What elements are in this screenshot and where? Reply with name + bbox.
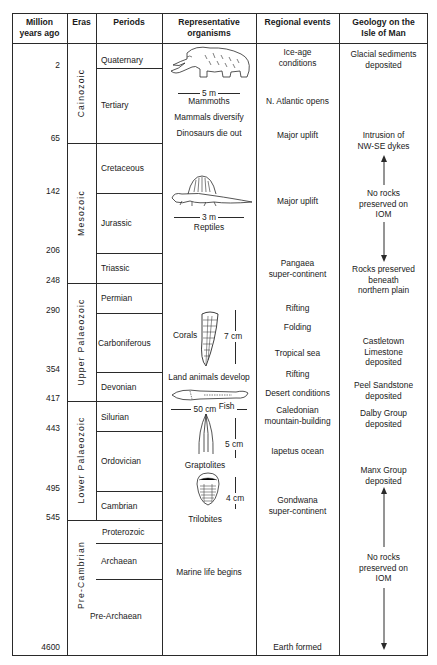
era-divider xyxy=(67,283,162,284)
scale-arrow-left xyxy=(171,409,191,410)
age-label: 2 xyxy=(12,60,60,71)
graptolite-scale-line xyxy=(235,418,236,458)
period-ordovician: Ordovician xyxy=(101,456,141,467)
age-label: 290 xyxy=(12,305,60,316)
scale-arrow-left xyxy=(178,93,200,94)
header-geology-line1: Geology on the xyxy=(339,17,428,28)
column-divider xyxy=(162,13,163,656)
fish-icon xyxy=(170,387,250,403)
reptile-scale: 3 m xyxy=(162,212,256,223)
geology-castletown-line2: Limestone xyxy=(339,347,428,358)
corals-label: Corals xyxy=(173,330,197,341)
event-folding: Folding xyxy=(256,322,339,333)
period-archaean: Archaean xyxy=(101,556,137,567)
header-organisms-line2: organisms xyxy=(162,28,256,39)
geology-glacial-line1: Glacial sediments xyxy=(339,49,428,60)
geology-no-rocks-2: No rocks preserved on IOM xyxy=(339,552,428,584)
header-periods: Periods xyxy=(96,17,162,28)
geology-rocks-preserved-line3: northern plain xyxy=(339,285,428,296)
reptile-icon xyxy=(168,174,253,208)
geology-dalby-line2: deposited xyxy=(339,419,428,430)
marine-life-begins: Marine life begins xyxy=(162,567,256,578)
period-divider xyxy=(96,543,162,544)
period-divider xyxy=(96,491,162,492)
scale-arrow-right xyxy=(218,217,244,218)
event-tropical-sea: Tropical sea xyxy=(256,348,339,359)
event-ice-age-line1: Ice-age xyxy=(256,47,339,58)
age-label: 4600 xyxy=(12,642,60,653)
event-rifting-1: Rifting xyxy=(256,303,339,314)
geology-rocks-preserved-line2: beneath xyxy=(339,275,428,286)
header-mya: Million years ago xyxy=(12,17,67,38)
era-cainozoic: Cainozoic xyxy=(76,53,86,133)
period-divider xyxy=(96,68,162,69)
period-divider xyxy=(96,313,162,314)
column-divider xyxy=(96,13,97,520)
period-divider xyxy=(96,253,162,254)
geology-no-rocks-2-line3: IOM xyxy=(339,573,428,584)
fish-scale: 50 cm Fish xyxy=(162,404,256,415)
land-animals-develop: Land animals develop xyxy=(162,372,256,383)
arrow-down-icon xyxy=(379,588,389,650)
trilobites-label: Trilobites xyxy=(165,514,245,525)
period-permian: Permian xyxy=(101,293,132,304)
event-gondwana: Gondwana super-continent xyxy=(256,495,339,516)
era-upper-palaeozoic: Upper Palaeozoic xyxy=(76,292,86,392)
period-pre-archaean: Pre-Archaean xyxy=(90,611,142,622)
geology-peel: Peel Sandstone deposited xyxy=(339,380,428,401)
era-lower-palaeozoic: Lower Palaeozoic xyxy=(76,410,86,510)
geology-castletown: Castletown Limestone deposited xyxy=(339,336,428,368)
event-major-uplift-2: Major uplift xyxy=(256,196,339,207)
geology-glacial-line2: deposited xyxy=(339,60,428,71)
geology-rocks-preserved: Rocks preserved beneath northern plain xyxy=(339,264,428,296)
period-tertiary: Tertiary xyxy=(101,100,128,111)
graptolite-icon xyxy=(196,414,216,454)
geology-no-rocks-1-line3: IOM xyxy=(339,209,428,220)
event-atlantic-opens: N. Atlantic opens xyxy=(256,96,339,107)
event-caledonian-line2: mountain-building xyxy=(256,416,339,427)
geology-rocks-preserved-line1: Rocks preserved xyxy=(339,264,428,275)
era-mesozoic: Mesozoic xyxy=(76,173,86,253)
age-label: 248 xyxy=(12,275,60,286)
period-cretaceous: Cretaceous xyxy=(101,163,144,174)
graptolites-scale: 5 cm xyxy=(225,439,243,450)
geology-castletown-line3: deposited xyxy=(339,357,428,368)
geology-intrusion-line2: NW-SE dykes xyxy=(339,141,428,152)
geology-peel-line2: deposited xyxy=(339,391,428,402)
header-mya-line2: years ago xyxy=(12,28,67,39)
period-divider xyxy=(96,372,162,373)
age-label: 206 xyxy=(12,245,60,256)
event-caledonian: Caledonian mountain-building xyxy=(256,405,339,426)
scale-arrow-right xyxy=(218,93,240,94)
age-label: 495 xyxy=(12,483,60,494)
age-label: 545 xyxy=(12,512,60,523)
age-label: 65 xyxy=(12,133,60,144)
age-label: 443 xyxy=(12,423,60,434)
geology-peel-line1: Peel Sandstone xyxy=(339,380,428,391)
event-pangaea-line2: super-continent xyxy=(256,269,339,280)
scale-arrow-right xyxy=(237,409,247,410)
geology-dalby: Dalby Group deposited xyxy=(339,408,428,429)
event-ice-age-line2: conditions xyxy=(256,58,339,69)
geology-no-rocks-1-line2: preserved on xyxy=(339,199,428,210)
geology-manx-line2: deposited xyxy=(339,476,428,487)
event-earth-formed: Earth formed xyxy=(256,642,339,653)
period-quaternary: Quaternary xyxy=(101,55,143,66)
period-divider xyxy=(96,431,162,432)
column-divider xyxy=(256,13,257,656)
geology-intrusion-line1: Intrusion of xyxy=(339,130,428,141)
arrow-up-icon xyxy=(379,487,389,547)
column-divider xyxy=(67,13,68,656)
reptile-scale-value: 3 m xyxy=(202,212,216,222)
age-label: 142 xyxy=(12,186,60,197)
era-divider xyxy=(67,143,162,144)
trilobite-icon xyxy=(195,472,221,506)
fish-scale-value: 50 cm xyxy=(194,404,217,414)
period-divider xyxy=(96,579,162,580)
header-events: Regional events xyxy=(256,17,339,28)
event-gondwana-line2: super-continent xyxy=(256,506,339,517)
period-triassic: Triassic xyxy=(101,263,130,274)
arrow-up-icon xyxy=(379,155,389,185)
age-label: 354 xyxy=(12,364,60,375)
mammoth-label: Mammoths xyxy=(162,96,256,107)
